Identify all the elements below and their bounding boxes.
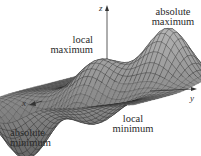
- absolute-minimum-line2: minimum: [10, 138, 60, 148]
- x-axis-label: x: [22, 98, 26, 108]
- absolute-maximum-label: absolute maximum: [146, 7, 200, 27]
- y-axis-label: y: [190, 93, 194, 103]
- local-maximum-line2: maximum: [44, 45, 93, 55]
- y-axis-arrow-icon: [191, 87, 197, 91]
- z-axis-label: z: [99, 3, 103, 13]
- local-minimum-label: local minimum: [108, 114, 158, 134]
- local-maximum-label: local maximum: [44, 35, 93, 55]
- z-axis-arrow-icon: [105, 5, 109, 11]
- local-minimum-line2: minimum: [108, 124, 158, 134]
- absolute-maximum-line2: maximum: [146, 17, 200, 27]
- absolute-minimum-label: absolute minimum: [10, 128, 60, 148]
